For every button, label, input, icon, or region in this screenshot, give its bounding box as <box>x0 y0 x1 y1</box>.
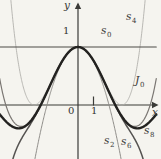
curve-label-j0-main: J <box>135 74 139 87</box>
curve-label-s0: s0 <box>101 25 111 36</box>
curve-label-s4: s4 <box>126 11 136 22</box>
curve-label-j0-sub: 0 <box>140 81 144 89</box>
curve-label-s4-sub: 4 <box>132 17 136 25</box>
curve-label-s0-sub: 0 <box>107 31 111 39</box>
curve-label-s8-main: s <box>144 124 149 136</box>
curve-label-s8-sub: 8 <box>150 131 154 139</box>
curve-label-j0: J0 <box>135 75 144 86</box>
curve-label-s0-main: s <box>101 24 106 36</box>
x-tick-label-1: 1 <box>91 106 97 116</box>
curve-label-s2: s2 <box>104 135 114 146</box>
y-axis-label: y <box>64 0 70 11</box>
y-tick-label-1: 1 <box>63 26 69 36</box>
curve-label-s6-sub: 6 <box>127 142 131 150</box>
curve-label-s6: s6 <box>121 136 131 147</box>
curve-label-s2-sub: 2 <box>110 141 114 149</box>
curve-label-s4-main: s <box>126 10 131 22</box>
x-axis-label: x <box>152 107 158 118</box>
bessel-series-figure: y x 0 1 1 s4 s2 s8 s6 s0 J0 <box>0 0 161 159</box>
curve-label-s2-main: s <box>104 134 109 146</box>
origin-label: 0 <box>68 106 74 116</box>
curve-label-s8: s8 <box>144 125 154 136</box>
curve-label-s6-main: s <box>121 135 126 147</box>
